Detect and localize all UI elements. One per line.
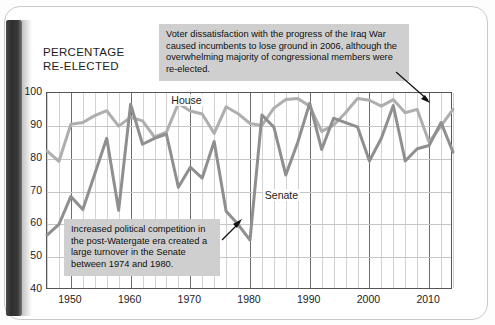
x-tick-label: 2010 [405, 293, 451, 305]
callout-iraq-war: Voter dissatisfaction with the progress … [159, 24, 409, 81]
callout-watergate: Increased political competition in the p… [64, 219, 220, 276]
series-label-senate: Senate [263, 189, 300, 201]
y-axis-labels: 100908070605040 [8, 92, 42, 289]
y-tick-label: 80 [12, 151, 42, 163]
x-tick-label: 1950 [47, 293, 93, 305]
x-tick-label: 2000 [345, 293, 391, 305]
x-tick-label: 1980 [226, 293, 272, 305]
y-tick-label: 60 [12, 216, 42, 228]
y-tick-label: 100 [12, 85, 42, 97]
gridline-minor-vertical [453, 93, 454, 288]
x-tick-label: 1990 [286, 293, 332, 305]
chart-page: PERCENTAGE RE-ELECTED 100908070605040 19… [0, 0, 495, 325]
series-label-house: House [169, 94, 203, 106]
y-axis-title: PERCENTAGE RE-ELECTED [43, 46, 124, 73]
y-tick-label: 90 [12, 118, 42, 130]
x-tick-label: 1970 [166, 293, 212, 305]
x-axis-labels: 1950196019701980199020002010 [46, 293, 452, 309]
x-tick-label: 1960 [107, 293, 153, 305]
y-tick-label: 40 [12, 282, 42, 294]
y-tick-label: 50 [12, 249, 42, 261]
y-tick-label: 70 [12, 184, 42, 196]
